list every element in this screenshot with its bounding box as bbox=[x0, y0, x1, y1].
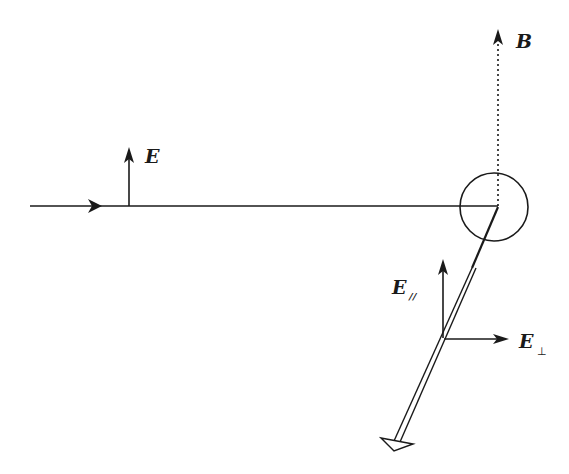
svg-text:⊥: ⊥ bbox=[537, 345, 547, 358]
scattered-beam-arrowhead-icon bbox=[381, 438, 413, 451]
incident-beam bbox=[30, 199, 498, 213]
diagram-canvas: E B E // E ⊥ bbox=[0, 0, 569, 474]
b-field-dotted-arrow bbox=[493, 29, 503, 206]
svg-text://: // bbox=[408, 291, 418, 302]
e-label: E bbox=[144, 145, 160, 167]
e-perp-label: E ⊥ bbox=[518, 330, 547, 358]
e-perp-arrow bbox=[444, 334, 509, 344]
e-parallel-label: E // bbox=[391, 276, 418, 302]
scattered-beam bbox=[381, 207, 498, 451]
e-field-arrow bbox=[124, 147, 134, 206]
b-arrowhead-icon bbox=[493, 29, 503, 45]
svg-text:E: E bbox=[391, 276, 407, 298]
b-label: B bbox=[515, 30, 532, 52]
svg-text:E: E bbox=[518, 330, 534, 352]
scatter-circle bbox=[460, 173, 528, 241]
